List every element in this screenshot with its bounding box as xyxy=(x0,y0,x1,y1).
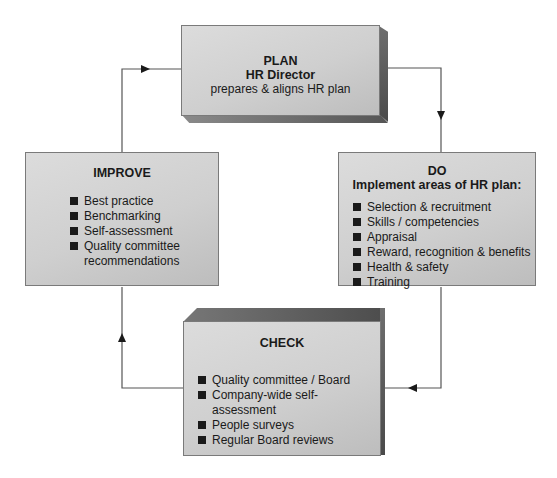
list-item: Quality committee / Board xyxy=(198,373,380,388)
do-title: DO xyxy=(339,164,535,178)
check-bevel-top xyxy=(183,308,383,322)
plan-box: PLAN HR Director prepares & aligns HR pl… xyxy=(181,25,380,116)
arrow-down-icon xyxy=(437,111,445,120)
list-item: Selection & recruitment xyxy=(353,200,535,215)
list-item: Reward, recognition & benefits xyxy=(353,245,535,260)
arrow-right-icon xyxy=(141,65,150,73)
list-item: Self-assessment xyxy=(70,224,210,239)
list-item: Regular Board reviews xyxy=(198,433,380,448)
improve-list: Best practice Benchmarking Self-assessme… xyxy=(70,194,210,269)
list-item: Health & safety xyxy=(353,260,535,275)
plan-subtitle: HR Director xyxy=(182,68,379,82)
list-item: Skills / competencies xyxy=(353,215,535,230)
check-list: Quality committee / Board Company-wide s… xyxy=(198,373,380,448)
improve-title: IMPROVE xyxy=(26,166,218,180)
list-item: Company-wide self-assessment xyxy=(198,388,380,418)
plan-bevel-side xyxy=(379,26,388,122)
list-item: Quality committee recommendations xyxy=(70,239,210,269)
arrow-left-icon xyxy=(408,384,417,392)
list-item: Best practice xyxy=(70,194,210,209)
plan-title: PLAN xyxy=(182,54,379,68)
connector-improve-to-plan xyxy=(122,69,181,152)
list-item: Appraisal xyxy=(353,230,535,245)
connector-plan-to-do xyxy=(388,68,441,152)
list-item: People surveys xyxy=(198,418,380,433)
improve-box: IMPROVE Best practice Benchmarking Self-… xyxy=(25,152,219,286)
connector-do-to-check xyxy=(381,287,441,388)
list-item: Benchmarking xyxy=(70,209,210,224)
connector-check-to-improve xyxy=(122,287,183,388)
do-subtitle: Implement areas of HR plan: xyxy=(339,178,535,192)
do-box: DO Implement areas of HR plan: Selection… xyxy=(338,152,536,286)
check-title: CHECK xyxy=(184,336,380,350)
list-item: Training xyxy=(353,275,535,290)
arrow-up-icon xyxy=(118,333,126,342)
plan-text: prepares & aligns HR plan xyxy=(182,82,379,96)
do-list: Selection & recruitment Skills / compete… xyxy=(353,200,535,290)
check-box: CHECK Quality committee / Board Company-… xyxy=(183,321,381,456)
